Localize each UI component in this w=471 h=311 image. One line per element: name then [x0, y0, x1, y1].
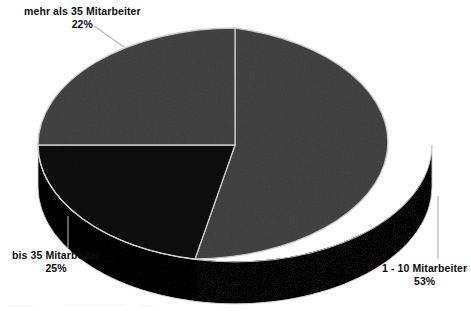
slice-label-bis-35-percent: 25% — [12, 262, 100, 275]
slice-label-1-10: 1 - 10 Mitarbeiter 53% — [382, 262, 467, 287]
slice-label-mehr-als-35: mehr als 35 Mitarbeiter 22% — [24, 5, 141, 30]
pie-chart: mehr als 35 Mitarbeiter 22% bis 35 Mitar… — [0, 0, 471, 311]
slice-label-bis-35-name: bis 35 Mitarbeiter — [12, 249, 100, 261]
slice-label-1-10-name: 1 - 10 Mitarbeiter — [382, 262, 467, 274]
slice-label-mehr-als-35-percent: 22% — [24, 18, 141, 31]
slice-label-1-10-percent: 53% — [382, 275, 467, 288]
slice-label-mehr-als-35-name: mehr als 35 Mitarbeiter — [24, 5, 141, 17]
pie-slice-mehr-als-35[interactable] — [38, 28, 235, 145]
slice-label-bis-35: bis 35 Mitarbeiter 25% — [12, 249, 100, 274]
scan-artifact — [8, 305, 34, 308]
scan-artifact — [64, 304, 126, 307]
side-wall-seam — [193, 258, 197, 301]
scan-artifact — [140, 305, 154, 308]
